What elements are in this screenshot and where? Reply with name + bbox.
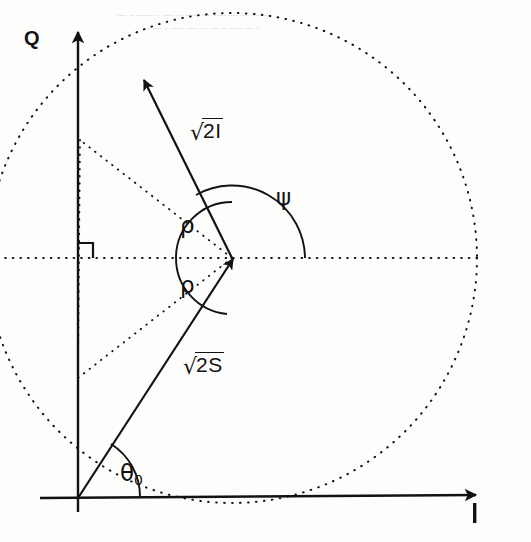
theta-zero-angle-label: θ0 bbox=[120, 462, 143, 487]
theta-glyph: θ bbox=[120, 460, 134, 486]
diagram-canvas bbox=[0, 0, 531, 542]
signal-radical: √2S bbox=[183, 352, 224, 378]
in-phase-axis-label-glyph bbox=[473, 503, 476, 523]
phasor-diagram-figure: — – —— – — –– —– — –— — –– — — – — – —– … bbox=[0, 0, 531, 542]
rho-upper-ray-dotted bbox=[80, 140, 232, 258]
signal-vector bbox=[78, 259, 233, 498]
rho-lower-angle-label: ρ bbox=[180, 274, 195, 297]
interference-vector-label: √2I bbox=[190, 118, 223, 144]
signal-vector-label: √2S bbox=[183, 352, 224, 378]
right-angle-marker bbox=[78, 243, 93, 258]
psi-angle-label: ψ bbox=[276, 186, 291, 209]
theta-subscript: 0 bbox=[134, 472, 143, 488]
interference-radical: √2I bbox=[190, 118, 223, 144]
uncertainty-circle bbox=[0, 13, 477, 503]
signal-radicand: 2S bbox=[195, 352, 224, 375]
interference-radicand: 2I bbox=[202, 118, 223, 141]
rho-upper-angle-label: ρ bbox=[180, 214, 195, 237]
in-phase-axis bbox=[40, 495, 476, 498]
quadrature-axis-label: Q bbox=[24, 28, 40, 48]
